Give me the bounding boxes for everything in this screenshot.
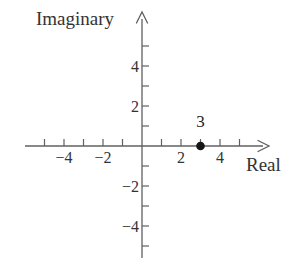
x-tick-label: −2	[94, 149, 111, 166]
complex-plane-figure: −4−224−4−224 Imaginary Real 3	[0, 0, 290, 265]
y-tick-label: −2	[122, 178, 139, 195]
x-tick-label: 4	[216, 149, 224, 166]
y-tick-label: −4	[122, 218, 139, 235]
data-point	[196, 142, 205, 151]
point-label: 3	[196, 113, 205, 130]
y-tick-label: 2	[131, 98, 139, 115]
x-tick-label: −4	[55, 149, 72, 166]
y-tick-label: 4	[131, 58, 139, 75]
x-axis-label: Real	[246, 155, 281, 176]
axes-canvas: −4−224−4−224	[0, 0, 290, 265]
x-tick-label: 2	[177, 149, 185, 166]
y-axis-label: Imaginary	[36, 9, 114, 30]
